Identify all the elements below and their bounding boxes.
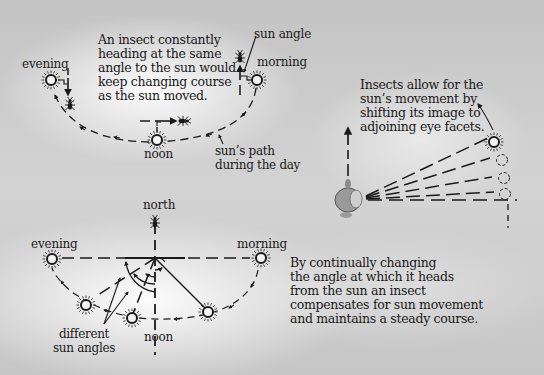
- label-different-sun-angles: different sun angles: [53, 327, 115, 355]
- sun-icon-noon-2: [123, 309, 142, 328]
- label-noon-bottom: noon: [144, 331, 173, 344]
- insect-icon-evening: [65, 97, 75, 110]
- label-morning-top: morning: [257, 56, 307, 69]
- label-morning-bottom: morning: [237, 238, 287, 251]
- caption-eye-facets: Insects allow for the sun’s movement by …: [360, 78, 484, 134]
- label-north: north: [143, 199, 175, 212]
- insect-icon-morning: [235, 50, 245, 63]
- sun-icon-eye-panel: [485, 133, 504, 152]
- label-noon-top: noon: [144, 148, 173, 161]
- caption-constant-angle: An insect constantly heading at the same…: [98, 33, 236, 103]
- insect-icon-north: [150, 215, 160, 228]
- insect-icon-noon: [178, 116, 191, 126]
- sun-icon-afternoon: [77, 296, 96, 315]
- sun-icon-evening-2: [43, 250, 62, 269]
- sun-icon-evening: [42, 71, 61, 90]
- label-sun-path: sun’s path during the day: [215, 144, 300, 172]
- label-evening-bottom: evening: [31, 238, 78, 251]
- label-evening-top: evening: [22, 58, 69, 71]
- caption-compensating: By continually changing the angle at whi…: [290, 256, 483, 326]
- sun-icon-morning-2: [252, 249, 271, 268]
- label-sun-angle: sun angle: [254, 28, 311, 41]
